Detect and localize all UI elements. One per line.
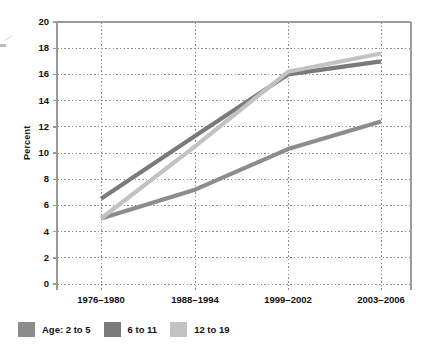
page-edge-artifact [0, 44, 6, 47]
y-tick-label: 10 [27, 148, 49, 158]
legend-label: Age: 2 to 5 [42, 324, 91, 335]
x-tick-label: 2003–2006 [336, 295, 426, 305]
y-tick-label: 16 [27, 69, 49, 79]
y-tick-label: 20 [27, 17, 49, 27]
y-tick-label: 6 [27, 200, 49, 210]
y-tick-label: 4 [27, 227, 49, 237]
legend-label: 6 to 11 [128, 324, 158, 335]
x-tick-label: 1988–1994 [150, 295, 240, 305]
x-tick-label: 1999–2002 [243, 295, 333, 305]
legend-swatch-icon [170, 322, 187, 337]
y-tick-label: 14 [27, 96, 49, 106]
y-tick-label: 8 [27, 174, 49, 184]
data-series-layer [101, 53, 381, 218]
chart-legend: Age: 2 to 56 to 1112 to 19 [18, 320, 243, 338]
line-chart: Percent 02468101214161820 1976–19801988–… [0, 0, 440, 356]
y-tick-label: 12 [27, 122, 49, 132]
x-tick-label: 1976–1980 [56, 295, 146, 305]
legend-swatch-icon [104, 322, 121, 337]
legend-item[interactable]: Age: 2 to 5 [18, 322, 91, 337]
gridlines [57, 22, 411, 290]
y-tick-label: 2 [27, 253, 49, 263]
y-tick-label: 0 [27, 279, 49, 289]
legend-swatch-icon [18, 322, 35, 337]
plot-frame [53, 22, 411, 290]
y-tick-label: 18 [27, 43, 49, 53]
legend-label: 12 to 19 [194, 324, 229, 335]
legend-item[interactable]: 12 to 19 [170, 322, 229, 337]
legend-item[interactable]: 6 to 11 [104, 322, 158, 337]
